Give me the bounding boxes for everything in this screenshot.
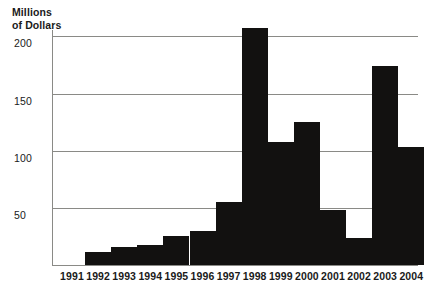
- bar-rect-1993: [111, 247, 137, 265]
- y-axis-title: Millions of Dollars: [12, 6, 61, 32]
- bars-layer: [52, 30, 418, 265]
- bar-rect-1992: [85, 252, 111, 265]
- y-tick-label-200: 200: [14, 38, 32, 49]
- bar-rect-1996: [190, 231, 216, 265]
- bar-rect-1999: [268, 142, 294, 265]
- bar-chart-figure: Millions of Dollars 200 150 100 50 19911…: [0, 0, 427, 293]
- bar-rect-1995: [163, 236, 189, 265]
- bar-rect-2002: [346, 238, 372, 265]
- bar-rect-2000: [294, 122, 320, 265]
- bar-rect-2003: [372, 66, 398, 265]
- y-axis-title-line-1: Millions: [12, 6, 61, 19]
- x-axis-tick-labels: 1991199219931994199519961997199819992000…: [52, 268, 418, 288]
- bar-rect-1998: [242, 28, 268, 265]
- bar-rect-2004: [398, 147, 424, 265]
- y-tick-label-50: 50: [14, 210, 26, 221]
- bar-rect-1997: [216, 202, 242, 265]
- x-axis-line: [52, 265, 418, 266]
- x-tick-label-2004: 2004: [391, 270, 427, 282]
- bar-rect-2001: [320, 210, 346, 265]
- bar-rect-1994: [137, 245, 163, 265]
- y-tick-label-100: 100: [14, 153, 32, 164]
- y-tick-label-150: 150: [14, 96, 32, 107]
